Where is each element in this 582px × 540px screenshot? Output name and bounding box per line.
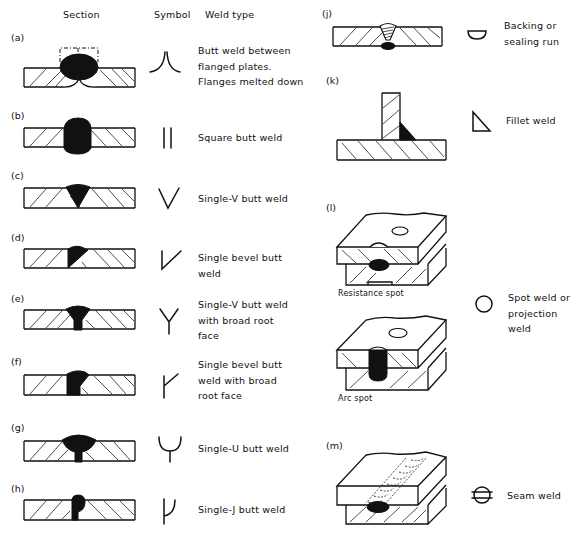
- section-seam-weld: [0, 0, 460, 530]
- weld-type-description: Fillet weld: [506, 113, 556, 129]
- seam-weld-symbol-icon: [471, 484, 495, 508]
- weld-type-description: Backing or sealing run: [504, 18, 559, 49]
- weld-type-description: Spot weld or projection weld: [508, 290, 582, 337]
- backing-run-symbol-icon: [466, 28, 490, 42]
- spot-weld-symbol-icon: [474, 294, 496, 316]
- fillet-weld-symbol-icon: [470, 110, 492, 134]
- weld-type-description: Seam weld: [507, 488, 561, 504]
